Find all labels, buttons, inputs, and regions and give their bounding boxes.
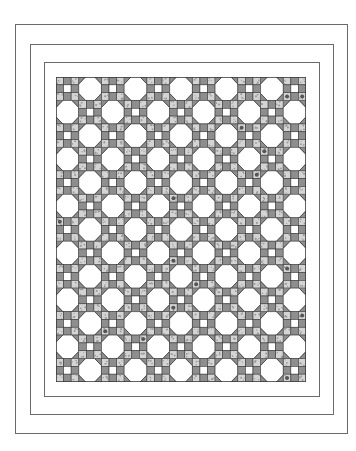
quilt-pattern (56, 77, 306, 382)
